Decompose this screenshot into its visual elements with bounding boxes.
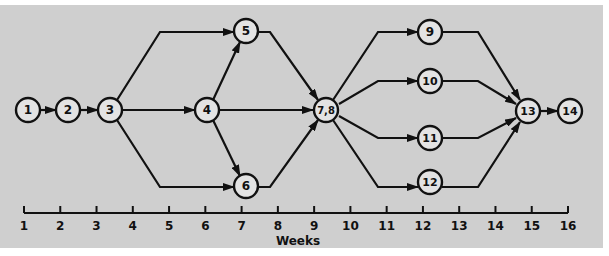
arrow-4-to-5 (213, 42, 240, 100)
axis-tick-label: 10 (342, 219, 359, 233)
arrow-3-to-6 (117, 120, 234, 187)
node-label: 3 (106, 103, 114, 117)
node-label: 14 (562, 105, 578, 118)
axis-tick-label: 5 (165, 219, 173, 233)
axis-tick-label: 4 (129, 219, 137, 233)
axis-tick-label: 8 (274, 219, 282, 233)
node-9: 9 (418, 20, 442, 44)
axis-tick-label: 7 (237, 219, 245, 233)
arrow-9-to-13 (442, 32, 520, 100)
node-78: 7,8 (314, 98, 338, 122)
arrow-6-to-78 (258, 120, 318, 187)
arrow-3-to-5 (117, 32, 234, 100)
arrow-11-to-13 (442, 118, 516, 138)
axis-title: Weeks (276, 234, 320, 248)
arrow-12-to-13 (442, 122, 520, 187)
nodes-group: 1234567,891011121314 (16, 19, 582, 198)
node-label: 1 (24, 103, 32, 117)
axis-tick-label: 14 (487, 219, 504, 233)
axis-tick-label: 16 (560, 219, 577, 233)
arrow-78-to-11 (339, 116, 418, 138)
arrow-4-to-6 (213, 120, 240, 176)
node-label: 12 (422, 176, 437, 189)
node-12: 12 (418, 170, 442, 194)
node-2: 2 (56, 98, 80, 122)
node-14: 14 (558, 99, 582, 123)
node-3: 3 (98, 98, 122, 122)
axis-tick-label: 2 (56, 219, 64, 233)
node-5: 5 (234, 19, 258, 43)
node-10: 10 (418, 69, 442, 93)
node-label: 7,8 (317, 105, 335, 116)
node-label: 10 (422, 75, 438, 88)
arrow-78-to-12 (333, 120, 418, 187)
node-label: 13 (520, 105, 535, 118)
axis-tick-label: 6 (201, 219, 209, 233)
network-diagram: 1234567,891011121314 1234567891011121314… (0, 0, 609, 256)
arrow-78-to-10 (339, 81, 418, 104)
node-1: 1 (16, 98, 40, 122)
node-label: 11 (422, 132, 437, 145)
axis-tick-label: 1 (20, 219, 28, 233)
weeks-axis: 12345678910111213141516 (20, 206, 577, 233)
node-4: 4 (195, 98, 219, 122)
node-label: 9 (426, 25, 434, 39)
arrow-5-to-78 (258, 32, 318, 100)
arrow-10-to-13 (442, 81, 516, 104)
node-11: 11 (418, 126, 442, 150)
axis-tick-label: 11 (378, 219, 395, 233)
node-13: 13 (516, 99, 540, 123)
axis-tick-label: 13 (451, 219, 468, 233)
node-label: 5 (242, 24, 250, 38)
axis-tick-label: 9 (310, 219, 318, 233)
axis-tick-label: 15 (523, 219, 540, 233)
node-label: 4 (203, 103, 211, 117)
axis-tick-label: 3 (92, 219, 100, 233)
node-label: 6 (242, 179, 250, 193)
arrow-78-to-9 (333, 32, 418, 100)
axis-tick-label: 12 (415, 219, 432, 233)
node-label: 2 (64, 103, 72, 117)
node-6: 6 (234, 174, 258, 198)
